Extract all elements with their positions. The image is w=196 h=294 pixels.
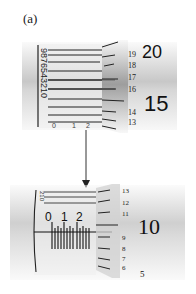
svg-text:210: 210 [39, 191, 45, 202]
svg-text:6: 6 [122, 264, 126, 272]
svg-text:11: 11 [122, 210, 129, 218]
sleeve-digit-0: 0 [45, 210, 52, 224]
svg-text:10: 10 [138, 214, 160, 239]
svg-text:5: 5 [140, 269, 145, 279]
sleeve-digit-2: 2 [76, 210, 83, 224]
bottom-micrometer-photo: 210 0 1 2 [0, 170, 196, 285]
svg-text:12: 12 [122, 199, 130, 207]
svg-text:13: 13 [122, 187, 130, 195]
svg-text:9: 9 [122, 234, 126, 242]
sleeve-digit-1: 1 [61, 210, 68, 224]
svg-text:8: 8 [122, 245, 126, 253]
svg-text:7: 7 [122, 255, 126, 263]
